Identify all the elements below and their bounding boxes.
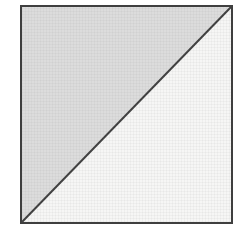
square-figure-svg <box>20 5 233 224</box>
figure-canvas <box>0 0 242 239</box>
square-figure <box>20 5 233 224</box>
